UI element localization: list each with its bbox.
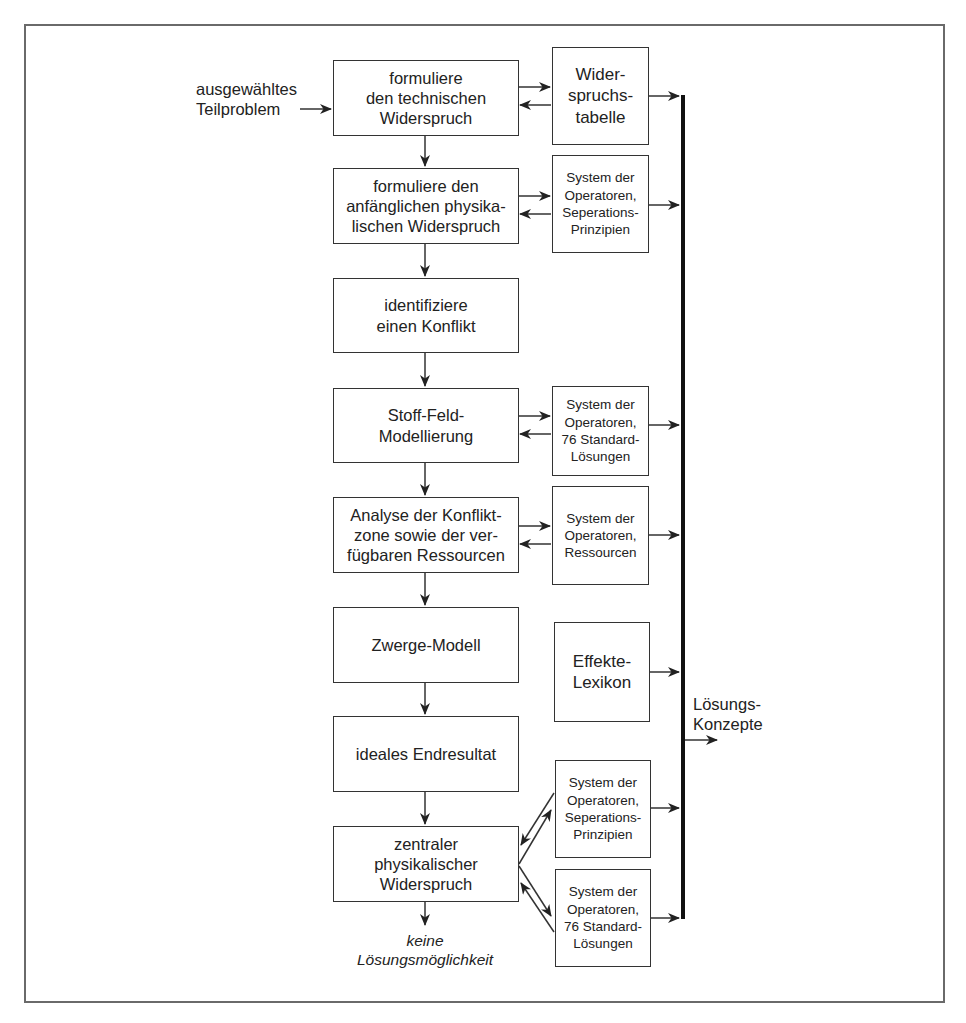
- tool-box-contradiction-table: Wider- spruchs- tabelle: [552, 47, 649, 145]
- tool-label: System der Operatoren, 76 Standard- Lösu…: [564, 883, 642, 952]
- step-box-ideal-final-result: ideales Endresultat: [333, 716, 519, 792]
- step-label: Stoff-Feld- Modellierung: [379, 405, 473, 445]
- step-box-substance-field-modeling: Stoff-Feld- Modellierung: [333, 388, 519, 463]
- tool-label: System der Operatoren, 76 Standard- Lösu…: [561, 396, 639, 465]
- step-label: Analyse der Konflikt- zone sowie der ver…: [347, 505, 505, 565]
- tool-label: Effekte- Lexikon: [573, 651, 632, 694]
- tool-label: Wider- spruchs- tabelle: [568, 64, 633, 128]
- step-box-dwarf-model: Zwerge-Modell: [333, 607, 519, 683]
- step-box-formulate-technical-contradiction: formuliere den technischen Widerspruch: [333, 60, 519, 136]
- input-label: ausgewähltes Teilproblem: [196, 79, 297, 119]
- step-label: zentraler physikalischer Widerspruch: [374, 834, 478, 894]
- tool-box-effects-lexicon: Effekte- Lexikon: [554, 622, 650, 722]
- step-box-identify-conflict: identifiziere einen Konflikt: [333, 278, 519, 353]
- tool-box-operators-separation-principles-2: System der Operatoren, Seperations- Prin…: [555, 760, 651, 858]
- tool-box-operators-76-standard-solutions-2: System der Operatoren, 76 Standard- Lösu…: [555, 869, 651, 967]
- step-box-central-physical-contradiction: zentraler physikalischer Widerspruch: [333, 826, 519, 902]
- tool-box-operators-76-standard-solutions: System der Operatoren, 76 Standard- Lösu…: [552, 386, 649, 476]
- step-label: formuliere den technischen Widerspruch: [366, 68, 486, 128]
- step-label: formuliere den anfänglichen physika- lis…: [346, 176, 506, 236]
- tool-label: System der Operatoren, Seperations- Prin…: [565, 774, 642, 843]
- step-label: ideales Endresultat: [356, 744, 496, 764]
- output-label: Lösungs- Konzepte: [693, 695, 763, 735]
- tool-label: System der Operatoren, Ressourcen: [564, 510, 636, 562]
- step-box-formulate-physical-contradiction: formuliere den anfänglichen physika- lis…: [333, 168, 519, 244]
- tool-label: System der Operatoren, Seperations- Prin…: [562, 169, 639, 238]
- tool-box-operators-separation-principles: System der Operatoren, Seperations- Prin…: [552, 155, 649, 253]
- step-label: Zwerge-Modell: [371, 635, 480, 655]
- tool-box-operators-resources: System der Operatoren, Ressourcen: [552, 486, 649, 585]
- step-box-conflict-zone-analysis: Analyse der Konflikt- zone sowie der ver…: [333, 497, 519, 573]
- no-solution-label: keine Lösungsmöglichkeit: [345, 932, 505, 970]
- step-label: identifiziere einen Konflikt: [376, 295, 475, 335]
